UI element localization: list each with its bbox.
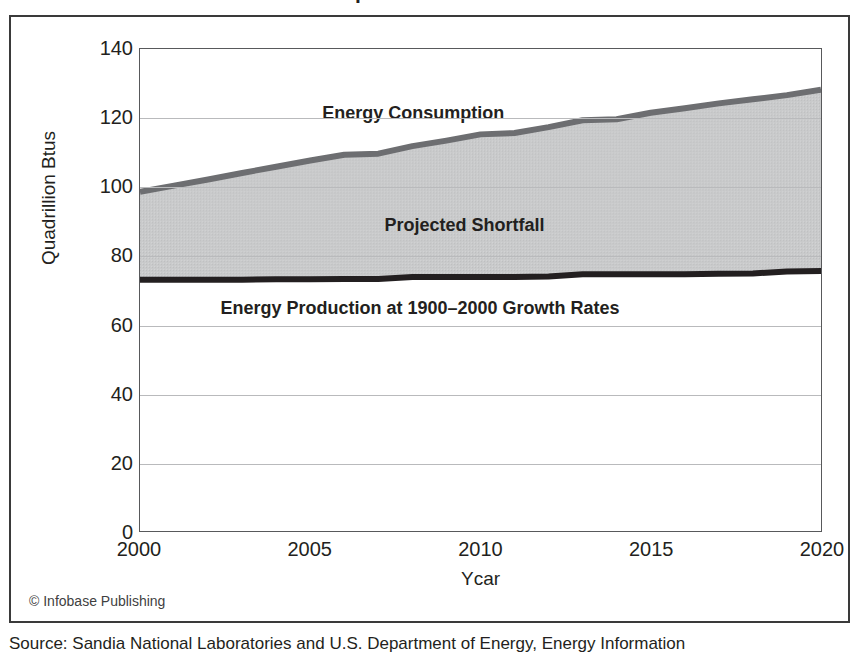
source-note: Source: Sandia National Laboratories and… bbox=[9, 634, 685, 653]
gridline-120 bbox=[140, 118, 821, 119]
annotation-energy-consumption: Energy Consumption bbox=[322, 102, 504, 123]
x-tick-label-2000: 2000 bbox=[117, 538, 162, 561]
y-tick-label-20: 20 bbox=[87, 451, 133, 474]
y-tick-label-100: 100 bbox=[87, 175, 133, 198]
y-tick-label-40: 40 bbox=[87, 382, 133, 405]
annotation-energy-production: Energy Production at 1900–2000 Growth Ra… bbox=[220, 298, 619, 319]
y-axis-label: Quadrillion Btus bbox=[38, 88, 60, 308]
x-tick-label-2020: 2020 bbox=[800, 538, 845, 561]
y-axis-ticks: 020406080100120140 bbox=[77, 48, 133, 532]
x-axis-ticks: 20002005201020152020 bbox=[139, 538, 822, 568]
page-title: as Compared with Production bbox=[0, 0, 859, 4]
gridline-60 bbox=[140, 326, 821, 327]
annotation-projected-shortfall: Projected Shortfall bbox=[384, 215, 544, 236]
figure-page: as Compared with Production 020406080100… bbox=[0, 0, 859, 653]
y-tick-label-60: 60 bbox=[87, 313, 133, 336]
source-note-clip: Source: Sandia National Laboratories and… bbox=[0, 634, 859, 653]
y-tick-label-120: 120 bbox=[87, 106, 133, 129]
gridline-80 bbox=[140, 256, 821, 257]
chart-title-clip: as Compared with Production bbox=[0, 0, 859, 14]
x-axis-label: Ycar bbox=[139, 568, 822, 590]
publisher-credit: © Infobase Publishing bbox=[29, 593, 165, 609]
gridline-100 bbox=[140, 187, 821, 188]
gridline-40 bbox=[140, 395, 821, 396]
x-tick-label-2015: 2015 bbox=[629, 538, 674, 561]
y-tick-label-140: 140 bbox=[87, 37, 133, 60]
gridline-20 bbox=[140, 464, 821, 465]
plot-area: Energy Consumption Projected Shortfall E… bbox=[139, 48, 822, 532]
x-tick-label-2005: 2005 bbox=[288, 538, 333, 561]
x-tick-label-2010: 2010 bbox=[458, 538, 503, 561]
y-tick-label-80: 80 bbox=[87, 244, 133, 267]
figure-frame: 020406080100120140 Quadrillion Btus Ener… bbox=[9, 15, 850, 623]
